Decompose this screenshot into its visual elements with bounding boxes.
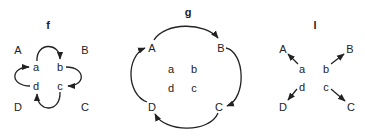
panel-l: l A B C D a b c d — [279, 19, 355, 113]
panel-l-label-c: c — [323, 81, 329, 93]
panel-g-label-A: A — [148, 42, 156, 54]
panel-l-label-B: B — [346, 43, 353, 55]
panel-l-arrow-a-A — [288, 54, 298, 64]
panel-g-arrow-D-A — [131, 48, 147, 102]
panel-f-label-b: b — [57, 61, 63, 73]
panel-g-label-b: b — [191, 63, 197, 75]
panel-f-label-a: a — [33, 61, 40, 73]
panel-f-arrow-d-a — [15, 67, 30, 86]
panel-l-arrow-c-C — [331, 89, 345, 101]
panel-g-label-a: a — [168, 63, 175, 75]
panel-f-label-B: B — [81, 44, 88, 56]
panel-g-label-B: B — [217, 42, 224, 54]
panel-g-arrow-A-B — [154, 26, 218, 40]
panel-f-label-D: D — [14, 101, 22, 113]
panel-f-label-C: C — [81, 101, 89, 113]
panel-l-label-b: b — [323, 63, 329, 75]
panel-f-arrow-b-c — [66, 67, 81, 86]
panel-f-arrow-a-b — [37, 46, 60, 61]
panel-l-arrow-b-B — [331, 54, 344, 64]
panel-f-label-A: A — [14, 44, 22, 56]
panel-l-label-d: d — [299, 81, 305, 93]
panel-l-label-C: C — [347, 101, 355, 113]
panel-l-label-D: D — [279, 101, 287, 113]
panel-f-label-c: c — [57, 80, 63, 92]
panel-f: f A B C D a b c d — [14, 19, 89, 113]
panel-l-title: l — [313, 19, 316, 31]
panel-g-label-c: c — [191, 82, 197, 94]
diagram-canvas: f A B C D a b c d g A B C D a b c d l A … — [0, 0, 365, 138]
panel-g-title: g — [185, 6, 192, 18]
panel-g: g A B C D a b c d — [131, 6, 241, 128]
panel-l-label-A: A — [279, 43, 287, 55]
panel-f-arrow-c-d — [37, 92, 60, 108]
panel-g-label-C: C — [215, 101, 223, 113]
panel-g-label-d: d — [168, 82, 174, 94]
panel-f-label-d: d — [33, 80, 39, 92]
panel-g-arrow-B-C — [226, 48, 241, 106]
panel-f-title: f — [46, 19, 50, 31]
panel-g-arrow-C-D — [155, 113, 218, 128]
panel-g-label-D: D — [148, 101, 156, 113]
panel-l-label-a: a — [299, 63, 306, 75]
panel-l-arrow-d-D — [288, 89, 297, 100]
